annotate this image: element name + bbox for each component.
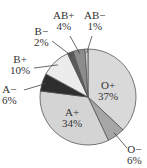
leader-line bbox=[114, 133, 127, 148]
label-b-neg: B− 2% bbox=[34, 26, 49, 48]
label-b-pos: B+ 10% bbox=[10, 54, 30, 76]
blood-type-pie-chart: O+ 37% A+ 34% O− 6% A− 6% B+ 10% B− 2% A… bbox=[0, 0, 147, 168]
label-a-pos: A+ 34% bbox=[62, 107, 82, 129]
label-o-neg: O− 6% bbox=[127, 144, 142, 166]
label-ab-pos: AB+ 4% bbox=[53, 10, 74, 32]
label-a-neg: A− 6% bbox=[2, 84, 17, 106]
label-o-pos: O+ 37% bbox=[98, 80, 118, 102]
leader-line bbox=[52, 41, 72, 56]
label-ab-neg: AB− 1% bbox=[84, 10, 105, 32]
